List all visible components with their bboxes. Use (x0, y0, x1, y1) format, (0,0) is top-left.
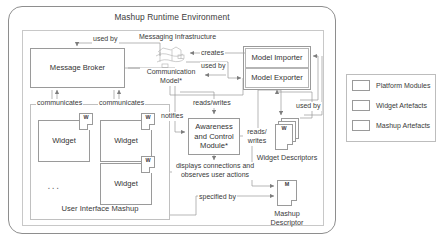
widget-ellipsis: ... (33, 180, 75, 191)
legend-label-widget-artefacts: Widget Artefacts (376, 102, 427, 109)
edge-label-communicates-1: communicates (36, 99, 83, 108)
widget-doc-letter: W (276, 125, 292, 131)
edge-label-reads-writes-side: reads/ writes (243, 128, 271, 146)
legend-item-mashup-artefacts: Mashup Artefacts (352, 120, 430, 131)
legend-swatch-platform-modules (352, 80, 370, 91)
edge-label-displays-observes: displays connections and observes user a… (172, 162, 258, 180)
mashup-doc-letter: M (278, 181, 296, 187)
widget-descriptor-icon: W (141, 113, 155, 130)
widget-doc-letter: W (142, 114, 154, 120)
edge-label-specified-by: specified by (198, 193, 237, 202)
mashup-descriptor-icon[interactable]: M (277, 180, 297, 206)
page-title: Mashup Runtime Environment (8, 12, 336, 22)
widget-descriptor-icon: W (141, 156, 155, 173)
messaging-infrastructure-label: Messaging Infrastructure (138, 33, 217, 42)
legend-label-platform-modules: Platform Modules (376, 82, 430, 89)
edge-label-used-by-model: used by (200, 62, 227, 71)
legend-swatch-widget-artefacts (352, 100, 370, 111)
edge-label-used-by-top: used by (92, 35, 119, 44)
node-communication-model: Communication Model* (140, 68, 202, 86)
legend-label-mashup-artefacts: Mashup Artefacts (376, 122, 430, 129)
node-model-importer[interactable]: Model Importer (245, 48, 309, 68)
node-message-broker[interactable]: Message Broker (30, 48, 125, 88)
legend-item-widget-artefacts: Widget Artefacts (352, 100, 427, 111)
legend-item-platform-modules: Platform Modules (352, 80, 430, 91)
widget-descriptors-sheet-front[interactable]: W (275, 124, 293, 150)
edge-label-notifies: notifies (160, 112, 184, 121)
edge-label-used-by-descriptors: used by (295, 102, 322, 111)
edge-label-reads-writes-top: reads/writes (192, 99, 232, 108)
widget-descriptor-icon: W (79, 113, 93, 130)
mashup-descriptor-label: Mashup Descriptor (258, 209, 316, 228)
diagram-canvas: Mashup Runtime Environment (0, 0, 443, 243)
widget-descriptors-label: Widget Descriptors (256, 153, 318, 162)
edge-label-creates: creates (200, 49, 225, 58)
user-interface-mashup-label: User Interface Mashup (30, 204, 170, 213)
legend-swatch-mashup-artefacts (352, 120, 370, 131)
node-awareness-and-control-module[interactable]: Awareness and Control Module* (188, 118, 240, 155)
widget-doc-letter: W (142, 157, 154, 163)
widget-doc-letter: W (80, 114, 92, 120)
node-model-exporter[interactable]: Model Exporter (245, 68, 309, 88)
edge-label-communicates-2: communicates (98, 99, 145, 108)
